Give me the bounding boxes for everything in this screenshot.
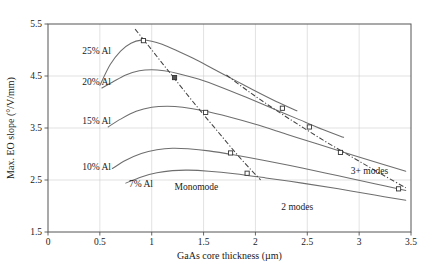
curve-label-7-al: 7% Al — [129, 179, 153, 189]
three-plus-modes-region-label: 3+ modes — [351, 166, 389, 176]
two-modes-region-label: 2 modes — [281, 202, 313, 212]
monomode-2modes-boundary — [135, 29, 260, 180]
region-annotations: Monomode2 modes3+ modes — [175, 166, 389, 212]
eo-slope-vs-core-thickness-chart: 00.511.522.533.5 1.52.53.54.55.5 25% Al2… — [0, 0, 426, 278]
cutoff-marker — [228, 151, 232, 155]
curve-label-15-al: 15% Al — [82, 116, 111, 126]
cutoff-marker — [307, 125, 311, 129]
chart-figure: 00.511.522.533.5 1.52.53.54.55.5 25% Al2… — [0, 0, 426, 278]
cutoff-marker — [141, 39, 145, 43]
monomode-region-label: Monomode — [175, 182, 219, 192]
x-tick-label: 2 — [253, 237, 258, 247]
x-tick-label: 1 — [149, 237, 154, 247]
curve-label-10-al: 10% Al — [82, 162, 111, 172]
data-curves — [100, 40, 406, 200]
data-curve-15-al — [108, 106, 406, 171]
x-tick-label: 3 — [357, 237, 362, 247]
y-tick-label: 2.5 — [30, 175, 42, 185]
cutoff-marker — [204, 110, 208, 114]
y-axis-title: Max. EO slope (°/V/mm) — [5, 77, 17, 179]
y-tick-label: 1.5 — [30, 227, 42, 237]
y-tick-label: 4.5 — [30, 71, 42, 81]
y-axis-ticks: 1.52.53.54.55.5 — [30, 19, 48, 237]
x-tick-label: 1.5 — [198, 237, 210, 247]
data-curve-25-al — [100, 40, 297, 111]
y-tick-label: 5.5 — [30, 19, 42, 29]
x-axis-title: GaAs core thickness (µm) — [177, 250, 282, 262]
series-inline-labels: 25% Al20% Al15% Al10% Al7% Al — [82, 46, 153, 189]
x-tick-label: 3.5 — [405, 237, 417, 247]
curve-label-20-al: 20% Al — [82, 77, 111, 87]
y-tick-label: 3.5 — [30, 123, 42, 133]
cutoff-marker — [396, 187, 400, 191]
mode-boundary-curves — [135, 29, 406, 188]
x-axis-ticks: 00.511.522.533.5 — [46, 232, 418, 247]
x-tick-label: 0 — [46, 237, 51, 247]
x-tick-label: 0.5 — [94, 237, 106, 247]
x-tick-label: 2.5 — [301, 237, 313, 247]
curve-label-25-al: 25% Al — [82, 46, 111, 56]
cutoff-marker — [280, 106, 284, 110]
cutoff-marker — [245, 171, 249, 175]
cutoff-marker — [338, 150, 342, 154]
cutoff-marker — [172, 75, 176, 79]
